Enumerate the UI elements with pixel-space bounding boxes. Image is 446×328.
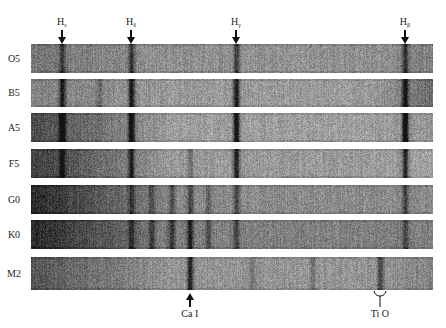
line-label-subscript: δ xyxy=(133,22,136,28)
spectrum-strip-m2 xyxy=(31,257,433,290)
spectral-type-label: F5 xyxy=(0,158,28,169)
line-label-h2: Hγ xyxy=(231,16,241,28)
line-label-ca-i: Ca I xyxy=(181,308,198,319)
line-label-h3: Hβ xyxy=(400,16,410,28)
spectral-type-label: B5 xyxy=(0,87,28,98)
spectrum-strip-b5 xyxy=(31,79,433,107)
line-label-ti-o: Ti O xyxy=(371,308,389,319)
spectral-type-label: O5 xyxy=(0,53,28,64)
line-label-h1: Hδ xyxy=(126,16,136,28)
spectral-type-label: G0 xyxy=(0,194,28,205)
spectrum-strip-k0 xyxy=(31,220,433,249)
line-label-subscript: ε xyxy=(64,22,67,28)
spectrum-strip-o5 xyxy=(31,44,433,73)
line-label-subscript: β xyxy=(407,22,410,28)
spectrum-strip-a5 xyxy=(31,113,433,142)
spectral-type-label: A5 xyxy=(0,122,28,133)
spectral-type-label: M2 xyxy=(0,268,28,279)
spectral-type-label: K0 xyxy=(0,229,28,240)
line-label-h0: Hε xyxy=(57,16,67,28)
spectrum-strip-g0 xyxy=(31,185,433,214)
line-label-subscript: γ xyxy=(238,22,241,28)
spectrum-strip-f5 xyxy=(31,149,433,178)
